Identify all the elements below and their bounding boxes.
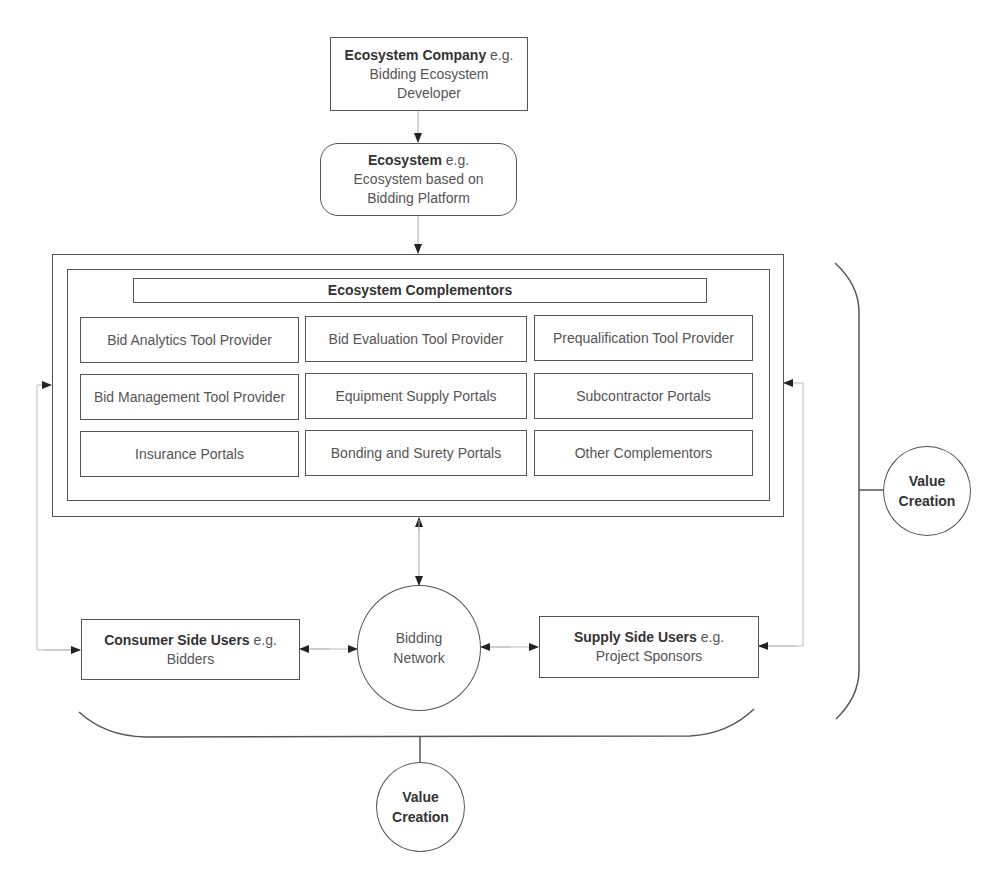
value-creation-bottom-circle: Value Creation (376, 762, 465, 852)
ecosystem-company-box: Ecosystem Company e.g. Bidding Ecosystem… (330, 37, 528, 111)
value-creation-right-label: Value Creation (898, 471, 956, 511)
consumer-side-users-box: Consumer Side Users e.g. Bidders (81, 619, 300, 680)
ecosystem-company-title: Ecosystem Company (345, 47, 487, 63)
consumer-side-title: Consumer Side Users (104, 632, 250, 648)
complementor-prequalification: Prequalification Tool Provider (534, 315, 753, 361)
complementor-subcontractor: Subcontractor Portals (534, 373, 753, 419)
complementor-bid-analytics: Bid Analytics Tool Provider (80, 317, 299, 363)
complementor-other: Other Complementors (534, 430, 753, 476)
complementor-bid-management: Bid Management Tool Provider (80, 374, 299, 420)
supply-side-title: Supply Side Users (574, 629, 697, 645)
complementor-insurance: Insurance Portals (80, 431, 299, 477)
complementor-bonding-surety: Bonding and Surety Portals (305, 430, 527, 476)
complementor-bid-evaluation: Bid Evaluation Tool Provider (305, 316, 527, 362)
value-creation-bottom-label: Value Creation (391, 787, 450, 827)
complementor-equipment-supply: Equipment Supply Portals (305, 373, 527, 419)
ecosystem-title: Ecosystem (368, 152, 442, 168)
bidding-network-circle: Bidding Network (357, 585, 481, 711)
ecosystem-box: Ecosystem e.g. Ecosystem based on Biddin… (320, 143, 517, 216)
supply-side-users-box: Supply Side Users e.g. Project Sponsors (539, 616, 759, 678)
bidding-network-label: Bidding Network (386, 628, 452, 668)
complementors-header: Ecosystem Complementors (133, 278, 707, 303)
value-creation-right-circle: Value Creation (883, 446, 971, 536)
